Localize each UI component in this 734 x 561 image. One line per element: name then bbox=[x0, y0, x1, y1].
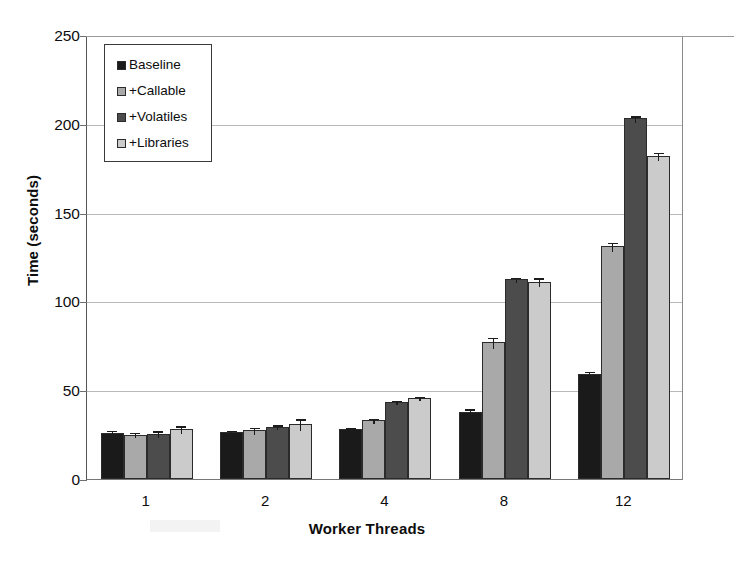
y-axis-tick-label: 100 bbox=[38, 294, 80, 310]
error-bar-cap bbox=[488, 338, 498, 339]
error-bar bbox=[493, 338, 494, 349]
legend-item[interactable]: +Volatiles bbox=[117, 104, 211, 130]
error-bar-cap bbox=[107, 431, 117, 432]
bar-group bbox=[445, 36, 564, 479]
y-axis-tick-label: 0 bbox=[38, 472, 80, 488]
y-axis-tick-label: 250 bbox=[38, 28, 80, 44]
bar-group bbox=[326, 36, 445, 479]
bar[interactable] bbox=[578, 374, 601, 479]
bar[interactable] bbox=[624, 118, 647, 479]
legend-item[interactable]: +Callable bbox=[117, 78, 211, 104]
error-bar bbox=[300, 419, 301, 430]
error-bar-cap bbox=[415, 397, 425, 398]
bar[interactable] bbox=[289, 424, 312, 479]
error-bar-cap bbox=[392, 401, 402, 402]
bar[interactable] bbox=[339, 429, 362, 479]
error-bar-cap bbox=[273, 425, 283, 426]
legend-item-label: Baseline bbox=[129, 58, 181, 72]
error-bar-cap bbox=[176, 426, 186, 427]
bar[interactable] bbox=[362, 420, 385, 479]
error-bar-cap bbox=[369, 419, 379, 420]
x-axis-tick-label: 8 bbox=[474, 492, 534, 509]
bar[interactable] bbox=[243, 430, 266, 479]
error-bar-cap bbox=[153, 431, 163, 432]
top-rule-extension bbox=[86, 36, 734, 37]
error-bar-cap bbox=[250, 428, 260, 429]
legend-item-label: +Volatiles bbox=[129, 110, 187, 124]
bar-group bbox=[565, 36, 684, 479]
error-bar-cap bbox=[534, 278, 544, 279]
error-bar-cap bbox=[130, 433, 140, 434]
bar[interactable] bbox=[101, 433, 124, 479]
y-axis-tick-mark bbox=[80, 302, 87, 303]
error-bar-cap bbox=[631, 116, 641, 117]
bar[interactable] bbox=[408, 398, 431, 479]
legend-item-label: +Callable bbox=[129, 84, 186, 98]
bar[interactable] bbox=[505, 279, 528, 479]
error-bar-cap bbox=[608, 243, 618, 244]
y-axis-tick-mark bbox=[80, 391, 87, 392]
x-axis-tick-label: 12 bbox=[593, 492, 653, 509]
legend-swatch-icon bbox=[117, 139, 126, 148]
legend: Baseline+Callable+Volatiles+Libraries bbox=[104, 44, 212, 162]
y-axis-tick-label: 50 bbox=[38, 383, 80, 399]
bar[interactable] bbox=[601, 246, 624, 479]
bar[interactable] bbox=[124, 435, 147, 479]
bar[interactable] bbox=[647, 156, 670, 479]
legend-swatch-icon bbox=[117, 113, 126, 122]
bar[interactable] bbox=[220, 432, 243, 479]
error-bar-cap bbox=[346, 428, 356, 429]
x-axis-tick-label: 1 bbox=[116, 492, 176, 509]
y-axis-tick-mark bbox=[80, 480, 87, 481]
y-axis-tick-labels: 050100150200250 bbox=[18, 0, 80, 561]
error-bar-cap bbox=[465, 409, 475, 410]
bar-chart-figure: Time (seconds) 050100150200250 124812 Wo… bbox=[0, 0, 734, 561]
x-axis-tick-label: 2 bbox=[235, 492, 295, 509]
legend-item-label: +Libraries bbox=[129, 136, 189, 150]
y-axis-tick-mark bbox=[80, 125, 87, 126]
error-bar-cap bbox=[511, 278, 521, 279]
legend-swatch-icon bbox=[117, 87, 126, 96]
legend-item[interactable]: Baseline bbox=[117, 52, 211, 78]
error-bar-cap bbox=[654, 153, 664, 154]
x-axis-tick-label: 4 bbox=[355, 492, 415, 509]
bar[interactable] bbox=[147, 434, 170, 479]
bar[interactable] bbox=[170, 429, 193, 479]
y-axis-tick-label: 200 bbox=[38, 117, 80, 133]
error-bar-cap bbox=[296, 419, 306, 420]
bar[interactable] bbox=[482, 342, 505, 479]
y-axis-tick-mark bbox=[80, 214, 87, 215]
y-axis-tick-label: 150 bbox=[38, 206, 80, 222]
error-bar-cap bbox=[227, 431, 237, 432]
bar[interactable] bbox=[528, 282, 551, 479]
bar-group bbox=[206, 36, 325, 479]
legend-swatch-icon bbox=[117, 61, 126, 70]
error-bar-cap bbox=[585, 372, 595, 373]
bar[interactable] bbox=[459, 412, 482, 479]
bar[interactable] bbox=[266, 427, 289, 479]
x-axis-title: Worker Threads bbox=[0, 520, 734, 537]
legend-item[interactable]: +Libraries bbox=[117, 130, 211, 156]
bar[interactable] bbox=[385, 402, 408, 479]
